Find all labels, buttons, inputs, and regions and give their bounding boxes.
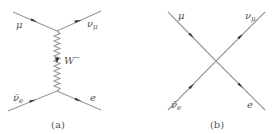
arrow-icon: [29, 100, 36, 103]
particle-label-electron: e: [247, 99, 253, 110]
particle-label-electron-antineutrino: ν̄e: [171, 99, 181, 112]
particle-label-muon: μ: [16, 19, 23, 30]
arrow-icon: [74, 20, 81, 23]
particle-label-muon-neutrino: νμ: [87, 18, 98, 31]
particle-label-electron: e: [90, 92, 96, 103]
boson-label-w-minus: W−: [64, 54, 80, 66]
caption-a: (a): [51, 119, 65, 130]
arrow-icon: [75, 98, 82, 102]
particle-label-muon-neutrino: νμ: [245, 10, 256, 23]
particle-label-muon: μ: [178, 10, 185, 21]
diagram-b: μ νμ ν̄e e (b): [168, 10, 265, 130]
particle-label-electron-antineutrino: ν̄e: [13, 92, 23, 105]
diagram-a: μ νμ W− ν̄e e (a): [8, 11, 101, 130]
feynman-diagrams: μ νμ W− ν̄e e (a) μ: [0, 0, 279, 134]
caption-b: (b): [210, 119, 224, 130]
